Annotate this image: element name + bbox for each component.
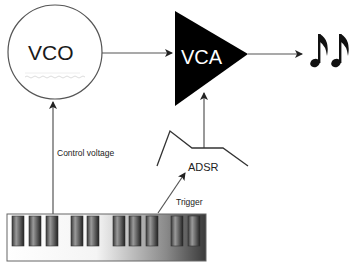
black-key xyxy=(12,216,24,246)
black-key xyxy=(46,216,58,246)
black-key xyxy=(87,216,99,246)
black-key xyxy=(29,216,41,246)
synth-diagram: VCO VCA Control voltage ADSR Trigger xyxy=(0,0,356,264)
black-key xyxy=(113,216,125,246)
black-key xyxy=(188,216,200,246)
trigger-label: Trigger xyxy=(176,197,203,207)
diagram-svg xyxy=(0,0,356,264)
black-key xyxy=(129,216,141,246)
keyboard xyxy=(7,214,206,261)
control-voltage-label: Control voltage xyxy=(57,148,114,158)
vco-label: VCO xyxy=(28,41,74,65)
adsr-label: ADSR xyxy=(188,161,219,173)
black-key xyxy=(146,216,158,246)
edge-keyboard-adsr xyxy=(158,173,185,213)
black-key xyxy=(171,216,183,246)
black-key xyxy=(71,216,83,246)
vca-label: VCA xyxy=(181,46,222,69)
music-notes-icon xyxy=(309,34,349,69)
